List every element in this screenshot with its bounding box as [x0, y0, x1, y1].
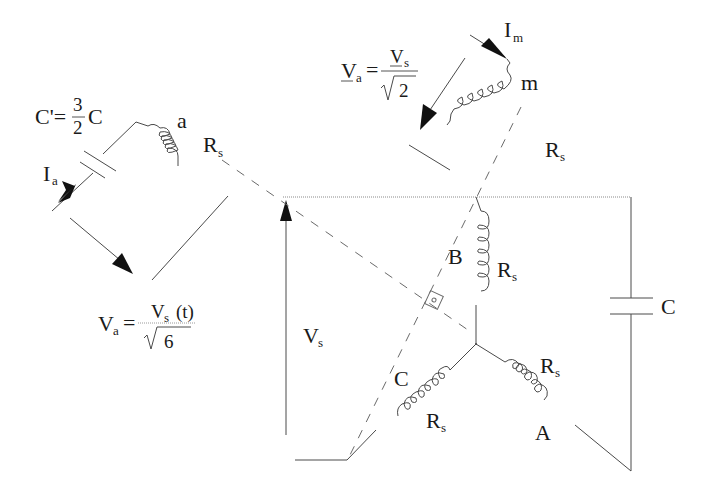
vs-label: V	[303, 323, 319, 348]
vs-arrow-head	[280, 200, 292, 221]
coil-m-label: m	[521, 70, 538, 95]
axis-a-dashed	[222, 160, 468, 330]
cprime-label: C'=	[35, 104, 66, 129]
wire-coil-a-return	[152, 196, 228, 280]
va-top-numerator-subscript: s	[404, 55, 409, 70]
circuit-phase-m-equivalent: I m m R s V a = V s 2	[341, 17, 565, 170]
rs-a-subscript: s	[218, 145, 223, 160]
coil-a-label: a	[177, 108, 187, 133]
im-label: I	[504, 17, 511, 42]
rs-phase-a-label: R	[540, 353, 555, 378]
circuit-phase-a-equivalent: C'= 3 2 C a R s I a V a = V s (t) 6	[35, 94, 228, 352]
phase-a-label: A	[535, 420, 551, 445]
ia-subscript: a	[52, 173, 58, 188]
va-bottom-denominator: 6	[164, 331, 174, 352]
axis-m-dashed	[350, 107, 521, 455]
wire-va-arrow-shaft	[70, 218, 120, 260]
phase-c-label: C	[394, 366, 409, 391]
wire-b-top	[476, 197, 481, 211]
va-bottom-lhs: V	[98, 311, 114, 336]
rs-a-label: R	[203, 132, 218, 157]
va-top-equals: =	[366, 57, 378, 82]
rs-phase-a-subscript: s	[555, 365, 560, 380]
capacitor-c-label: C	[661, 294, 676, 319]
inductor-coil-m	[447, 59, 511, 125]
wire-c-to-bottom-left	[295, 430, 376, 460]
ia-label: I	[43, 161, 50, 186]
capacitor-cprime-plate-2	[80, 162, 105, 178]
rs-b-subscript: s	[512, 269, 517, 284]
rs-m-subscript: s	[560, 149, 565, 164]
va-bottom-lhs-subscript: a	[113, 323, 119, 338]
va-bottom-numerator-tail: (t)	[176, 301, 194, 323]
wire-neutral-to-c	[450, 344, 476, 370]
wire-neutral-to-a	[476, 344, 505, 362]
im-subscript: m	[513, 30, 523, 45]
va-top-denominator: 2	[399, 80, 409, 101]
wire-coil-m-return	[409, 145, 450, 170]
cprime-rhs: C	[88, 104, 103, 129]
rs-m-label: R	[545, 137, 560, 162]
va-bottom-numerator: V	[151, 301, 165, 322]
circuit-diagram: C'= 3 2 C a R s I a V a = V s (t) 6 I m …	[0, 0, 715, 493]
va-top-lhs: V	[341, 58, 357, 83]
va-top-numerator: V	[390, 46, 404, 67]
va-top-arrow-head	[420, 104, 437, 130]
rotor-center-dot	[431, 297, 436, 302]
va-top-lhs-subscript: a	[356, 70, 362, 85]
cprime-denominator: 2	[73, 117, 83, 138]
wire-va-top-arrow-shaft	[430, 58, 465, 110]
cprime-numerator: 3	[73, 94, 83, 115]
inductor-coil-b	[478, 211, 489, 291]
wire-cprime-to-coil-a	[103, 122, 148, 154]
rs-b-label: R	[497, 257, 512, 282]
phase-b-label: B	[448, 244, 463, 269]
wire-a-to-bottom	[575, 425, 631, 471]
star-motor-circuit: C V s B R s R s A C R s	[222, 107, 676, 471]
inductor-coil-a	[148, 124, 178, 166]
rs-c-subscript: s	[441, 420, 446, 435]
vs-subscript: s	[318, 335, 323, 350]
rs-c-label: R	[426, 408, 441, 433]
va-bottom-equals: =	[123, 310, 135, 335]
